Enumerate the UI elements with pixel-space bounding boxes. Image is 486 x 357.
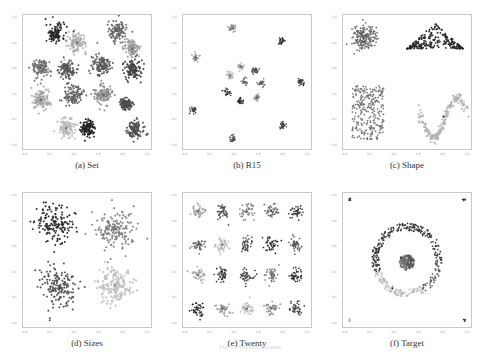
y-tick-label: 0.2 <box>172 295 177 299</box>
x-tick-label: 0.8 <box>440 330 445 334</box>
x-tick-label: 0.6 <box>96 330 101 334</box>
y-tick-label: 0.8 <box>12 41 17 45</box>
y-tick-label: 0.4 <box>332 92 337 96</box>
y-tick-label: 0.4 <box>12 92 17 96</box>
y-tick-label: 0.8 <box>172 219 177 223</box>
x-axis-ticks: 0.00.20.40.60.81.0 <box>182 330 312 336</box>
y-tick-label: 0.4 <box>12 270 17 274</box>
subfigure-caption: (c) Shape <box>332 160 482 170</box>
x-tick-label: 0.4 <box>391 330 396 334</box>
x-tick-label: 0.2 <box>367 330 372 334</box>
y-tick-label: 0.0 <box>172 143 177 147</box>
x-tick-label: 0.6 <box>256 152 261 156</box>
y-tick-label: 0.6 <box>172 244 177 248</box>
y-tick-label: 1.0 <box>12 15 17 19</box>
x-tick-label: 0.6 <box>96 152 101 156</box>
y-tick-label: 0.4 <box>172 92 177 96</box>
x-tick-label: 0.6 <box>416 330 421 334</box>
y-axis-ticks: 1.00.80.60.40.20.0 <box>332 192 342 328</box>
y-axis-ticks: 1.00.80.60.40.20.0 <box>172 192 182 328</box>
x-tick-label: 0.8 <box>280 152 285 156</box>
x-tick-label: 0.0 <box>23 330 28 334</box>
y-tick-label: 1.0 <box>12 193 17 197</box>
x-tick-label: 0.0 <box>343 330 348 334</box>
y-tick-label: 0.2 <box>172 117 177 121</box>
x-tick-label: 0.8 <box>120 330 125 334</box>
x-tick-label: 0.2 <box>207 152 212 156</box>
y-tick-label: 0.0 <box>332 143 337 147</box>
x-tick-label: 0.0 <box>183 152 188 156</box>
y-tick-label: 1.0 <box>332 15 337 19</box>
y-tick-label: 0.6 <box>172 66 177 70</box>
x-tick-label: 0.2 <box>47 330 52 334</box>
scatter-plot-area <box>22 192 152 328</box>
x-axis-ticks: 0.00.20.40.60.81.0 <box>182 152 312 158</box>
chart-panel-r15: 1.00.80.60.40.20.00.00.20.40.60.81.0(b) … <box>172 10 334 178</box>
x-tick-label: 0.4 <box>231 330 236 334</box>
x-tick-label: 0.2 <box>367 152 372 156</box>
x-tick-label: 1.0 <box>145 152 150 156</box>
x-tick-label: 0.8 <box>280 330 285 334</box>
x-tick-label: 1.0 <box>305 152 310 156</box>
y-axis-ticks: 1.00.80.60.40.20.0 <box>332 14 342 150</box>
x-tick-label: 0.2 <box>47 152 52 156</box>
x-tick-label: 0.6 <box>416 152 421 156</box>
y-tick-label: 0.8 <box>12 219 17 223</box>
y-tick-label: 1.0 <box>172 15 177 19</box>
y-tick-label: 0.6 <box>332 66 337 70</box>
chart-panel-set: 1.00.80.60.40.20.00.00.20.40.60.81.0(a) … <box>12 10 174 178</box>
y-tick-label: 1.0 <box>172 193 177 197</box>
y-tick-label: 0.8 <box>172 41 177 45</box>
y-tick-label: 0.2 <box>332 117 337 121</box>
y-tick-label: 0.0 <box>172 321 177 325</box>
y-tick-label: 0.6 <box>12 66 17 70</box>
y-tick-label: 0.4 <box>332 270 337 274</box>
x-tick-label: 0.8 <box>120 152 125 156</box>
x-tick-label: 1.0 <box>145 330 150 334</box>
x-tick-label: 1.0 <box>465 152 470 156</box>
x-tick-label: 0.4 <box>71 330 76 334</box>
y-tick-label: 0.2 <box>12 295 17 299</box>
subfigure-caption: (f) Target <box>332 338 482 348</box>
x-axis-ticks: 0.00.20.40.60.81.0 <box>22 152 152 158</box>
x-tick-label: 0.0 <box>343 152 348 156</box>
y-tick-label: 0.2 <box>332 295 337 299</box>
y-tick-label: 1.0 <box>332 193 337 197</box>
y-axis-ticks: 1.00.80.60.40.20.0 <box>12 192 22 328</box>
y-tick-label: 0.6 <box>12 244 17 248</box>
x-axis-ticks: 0.00.20.40.60.81.0 <box>342 152 472 158</box>
x-tick-label: 0.4 <box>391 152 396 156</box>
x-tick-label: 0.6 <box>256 330 261 334</box>
scatter-plot-area <box>342 14 472 150</box>
y-tick-label: 0.0 <box>12 321 17 325</box>
y-tick-label: 0.6 <box>332 244 337 248</box>
x-tick-label: 0.2 <box>207 330 212 334</box>
y-tick-label: 0.0 <box>12 143 17 147</box>
chart-panel-sizes: 1.00.80.60.40.20.00.00.20.40.60.81.0(d) … <box>12 188 174 356</box>
x-tick-label: 0.0 <box>23 152 28 156</box>
chart-panel-shape: 1.00.80.60.40.20.00.00.20.40.60.81.0(c) … <box>332 10 486 178</box>
subfigure-caption: (b) R15 <box>172 160 322 170</box>
y-tick-label: 0.4 <box>172 270 177 274</box>
subfigure-caption: (a) Set <box>12 160 162 170</box>
scatter-plot-area <box>342 192 472 328</box>
figure-caption: Fig. — Synthetic datasets <box>150 344 350 350</box>
y-tick-label: 0.8 <box>332 219 337 223</box>
chart-panel-twenty: 1.00.80.60.40.20.00.00.20.40.60.81.0(e) … <box>172 188 334 356</box>
x-tick-label: 0.4 <box>231 152 236 156</box>
x-axis-ticks: 0.00.20.40.60.81.0 <box>342 330 472 336</box>
x-tick-label: 1.0 <box>465 330 470 334</box>
x-tick-label: 0.4 <box>71 152 76 156</box>
scatter-plot-area <box>182 192 312 328</box>
x-tick-label: 0.8 <box>440 152 445 156</box>
x-tick-label: 0.0 <box>183 330 188 334</box>
x-tick-label: 1.0 <box>305 330 310 334</box>
chart-panel-target: 1.00.80.60.40.20.00.00.20.40.60.81.0(f) … <box>332 188 486 356</box>
x-axis-ticks: 0.00.20.40.60.81.0 <box>22 330 152 336</box>
scatter-plot-area <box>182 14 312 150</box>
y-tick-label: 0.2 <box>12 117 17 121</box>
y-axis-ticks: 1.00.80.60.40.20.0 <box>172 14 182 150</box>
y-axis-ticks: 1.00.80.60.40.20.0 <box>12 14 22 150</box>
y-tick-label: 0.8 <box>332 41 337 45</box>
scatter-plot-area <box>22 14 152 150</box>
